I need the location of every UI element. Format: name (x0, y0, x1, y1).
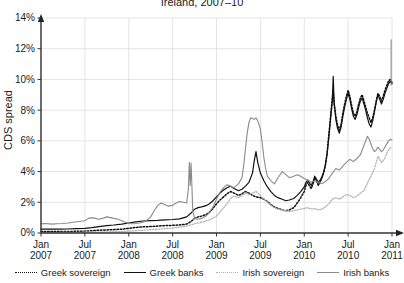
legend-swatch-icon (216, 269, 238, 277)
y-tick-label: 14% (15, 12, 35, 23)
x-tick-label-month: Jan (296, 239, 312, 250)
x-tick-label-year: 2010 (337, 250, 360, 261)
x-tick-label-year: 2008 (118, 250, 141, 261)
y-tick-label: 12% (15, 43, 35, 54)
x-tick-label-year: 2007 (74, 250, 97, 261)
x-tick-label-year: 2011 (381, 250, 403, 261)
gridlines (41, 18, 392, 233)
y-axis-title: CDS spread (0, 0, 18, 240)
y-tick-labels: 0%2%4%6%8%10%12%14% (15, 12, 41, 238)
y-axis-title-text: CDS spread (2, 90, 14, 150)
x-tick-label-month: Jan (33, 239, 49, 250)
chart-plot-area: 0%2%4%6%8%10%12%14% Jan2007Jul2007Jan200… (0, 0, 404, 262)
legend-item-greek-banks[interactable]: Greek banks (124, 267, 204, 278)
x-tick-label-month: Jul (254, 239, 267, 250)
legend-item-label: Irish sovereign (242, 267, 304, 278)
x-tick-label-year: 2010 (293, 250, 316, 261)
x-tick-label-month: Jul (166, 239, 179, 250)
x-tick-label-month: Jan (121, 239, 137, 250)
legend-item-label: Irish banks (343, 267, 389, 278)
y-tick-label: 0% (21, 227, 36, 238)
legend-swatch-icon (317, 269, 339, 277)
axes (38, 14, 404, 236)
y-tick-label: 8% (21, 105, 36, 116)
legend-item-irish-sovereign[interactable]: Irish sovereign (216, 267, 304, 278)
chart-title: Ireland, 2007–10 (0, 0, 404, 8)
legend-swatch-icon (15, 269, 37, 277)
y-tick-label: 10% (15, 74, 35, 85)
x-tick-label-month: Jan (384, 239, 400, 250)
chart-legend: Greek sovereignGreek banksIrish sovereig… (0, 262, 404, 283)
y-tick-label: 6% (21, 135, 36, 146)
legend-item-label: Greek banks (150, 267, 204, 278)
y-tick-label: 4% (21, 166, 36, 177)
x-tick-label-year: 2007 (30, 250, 53, 261)
legend-item-irish-banks[interactable]: Irish banks (317, 267, 389, 278)
x-tick-label-month: Jan (208, 239, 224, 250)
x-tick-labels: Jan2007Jul2007Jan2008Jul2008Jan2009Jul20… (30, 233, 403, 261)
legend-item-label: Greek sovereign (41, 267, 111, 278)
y-tick-label: 2% (21, 197, 36, 208)
x-tick-label-month: Jul (342, 239, 355, 250)
cds-spread-chart-figure: Ireland, 2007–10 CDS spread 0%2%4%6%8%10… (0, 0, 404, 283)
legend-swatch-icon (124, 269, 146, 277)
x-tick-label-year: 2009 (205, 250, 228, 261)
x-tick-label-month: Jul (78, 239, 91, 250)
x-tick-label-year: 2009 (249, 250, 272, 261)
legend-item-greek-sovereign[interactable]: Greek sovereign (15, 267, 111, 278)
x-tick-label-year: 2008 (162, 250, 185, 261)
